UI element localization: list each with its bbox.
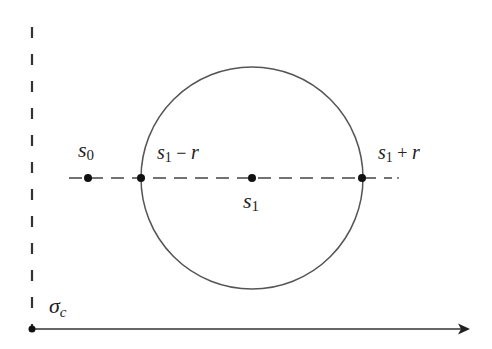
label-s1: s1 [243, 188, 259, 214]
label-sigma-c: σc [49, 293, 67, 320]
diagram-canvas: s0 s1 − r s1 s1 + r σc [0, 0, 492, 349]
point-origin [29, 326, 36, 333]
label-s0: s0 [78, 137, 94, 163]
label-s1-plus-r: s1 + r [378, 141, 420, 165]
point-s1-minus-r [137, 174, 145, 182]
point-s1 [248, 174, 256, 182]
point-s1-plus-r [358, 174, 366, 182]
label-s1-minus-r: s1 − r [157, 141, 199, 165]
point-s0 [84, 174, 92, 182]
